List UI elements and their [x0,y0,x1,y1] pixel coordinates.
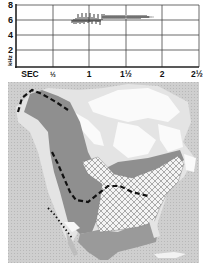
y-tick-6: 6 [8,15,13,25]
y-tick-8: 8 [8,0,13,10]
x-tick-1: 1 [87,69,92,79]
y-tick-2: 2 [8,45,13,55]
x-tick-half: ½ [50,71,56,78]
y-tick-4: 4 [8,30,13,40]
x-axis-labels: SEC ½ 1 1½ 2 2½ [21,69,203,79]
x-tick-2: 2 [160,69,165,79]
sonogram-trace [72,13,153,25]
sonogram-chart: 8 6 4 2 kHz SEC ½ 1 1½ 2 2½ [0,0,206,80]
x-axis-title: SEC [21,69,38,79]
range-map [8,82,199,263]
x-tick-1-half: 1½ [120,69,132,79]
chart-grid [16,5,199,67]
x-tick-2-half: 2½ [191,69,203,79]
y-axis-title: kHz [7,55,13,66]
chart-axes [15,4,199,68]
y-axis-labels: 8 6 4 2 [8,0,13,55]
